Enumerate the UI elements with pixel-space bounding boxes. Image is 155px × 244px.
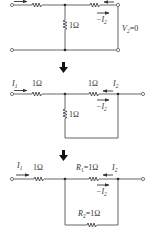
- label-v2-zero: V2=0: [122, 24, 138, 34]
- series-resistor-right: [90, 3, 100, 7]
- resistor-r1: [89, 177, 99, 181]
- label-r1: R1=1Ω: [75, 163, 98, 173]
- label-i2: I2: [111, 163, 118, 173]
- label-i2: I2: [112, 79, 119, 89]
- down-arrow-icon: [59, 150, 68, 161]
- series-resistor-left: [34, 177, 44, 181]
- label-r2: R2=1Ω: [77, 209, 100, 219]
- stage-1-circuit: −I2 1Ω V2=0: [10, 2, 138, 52]
- loop-wire: [97, 179, 118, 225]
- node: [64, 49, 67, 52]
- stage-2-circuit: I1 1Ω 1Ω I2 −I2 1Ω: [10, 79, 144, 138]
- input-terminal: [10, 177, 13, 180]
- series-resistor-left: [32, 92, 42, 96]
- series-resistor-left: [32, 3, 42, 7]
- stage-3-circuit: I1 1Ω R1=1Ω I2 −I2 R2=1Ω: [10, 161, 144, 227]
- label-i1: I1: [11, 79, 18, 89]
- label-series-left: 1Ω: [33, 163, 43, 172]
- circuit-diagram: −I2 1Ω V2=0 I1 1Ω 1Ω I2 −I2: [0, 0, 155, 244]
- output-terminal: [141, 92, 144, 95]
- label-minus-i2: −I2: [96, 15, 107, 25]
- input-terminal-top: [10, 3, 13, 6]
- shunt-resistor: [63, 20, 67, 30]
- label-minus-i2: −I2: [96, 102, 107, 112]
- label-series-left: 1Ω: [32, 79, 42, 88]
- output-terminal-top: [116, 3, 119, 6]
- label-shunt-resistor: 1Ω: [69, 21, 79, 30]
- input-terminal-bottom: [10, 48, 13, 51]
- label-minus-i2: −I2: [96, 187, 107, 197]
- shunt-resistor: [63, 109, 67, 119]
- label-i1: I1: [16, 161, 23, 171]
- output-terminal: [141, 177, 144, 180]
- label-series-right: 1Ω: [88, 79, 98, 88]
- series-resistor-right: [89, 92, 99, 96]
- label-shunt-resistor: 1Ω: [69, 110, 79, 119]
- down-arrow-icon: [59, 62, 68, 73]
- input-terminal: [10, 92, 13, 95]
- output-terminal-bottom: [116, 48, 119, 51]
- resistor-r2: [87, 223, 97, 227]
